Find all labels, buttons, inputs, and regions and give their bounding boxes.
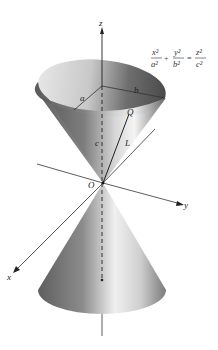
y-axis-front bbox=[103, 183, 181, 204]
point-q-label: Q bbox=[127, 107, 134, 117]
semi-axis-a-label: a bbox=[80, 93, 85, 103]
eq-plus-sign: + bbox=[164, 54, 169, 63]
cone-equation: x² a² + y² b² = z² c² bbox=[151, 47, 206, 69]
eq-term3-denominator: c² bbox=[196, 59, 203, 69]
eq-term1-denominator: a² bbox=[151, 59, 158, 69]
eq-term3-numerator: z² bbox=[195, 47, 202, 57]
semi-axis-b-label: b bbox=[134, 85, 139, 95]
elliptic-cone-figure: z y x O a b c Q L x² a² + y² b² = z² c² bbox=[0, 0, 218, 350]
z-axis-label: z bbox=[98, 18, 103, 28]
y-axis-arrow-icon bbox=[176, 201, 184, 206]
eq-term2-numerator: y² bbox=[173, 47, 181, 57]
height-c-label: c bbox=[95, 138, 99, 148]
eq-term1-numerator: x² bbox=[151, 47, 159, 57]
eq-term2-denominator: b² bbox=[173, 59, 180, 69]
origin-label: O bbox=[88, 180, 95, 190]
x-axis-label: x bbox=[6, 272, 11, 282]
eq-equals-sign: = bbox=[187, 54, 192, 63]
y-axis-label: y bbox=[183, 200, 188, 210]
lower-center-point bbox=[101, 279, 104, 282]
z-axis-arrow-icon bbox=[100, 27, 104, 34]
origin-point bbox=[102, 182, 105, 185]
generator-l-label: L bbox=[124, 138, 130, 148]
